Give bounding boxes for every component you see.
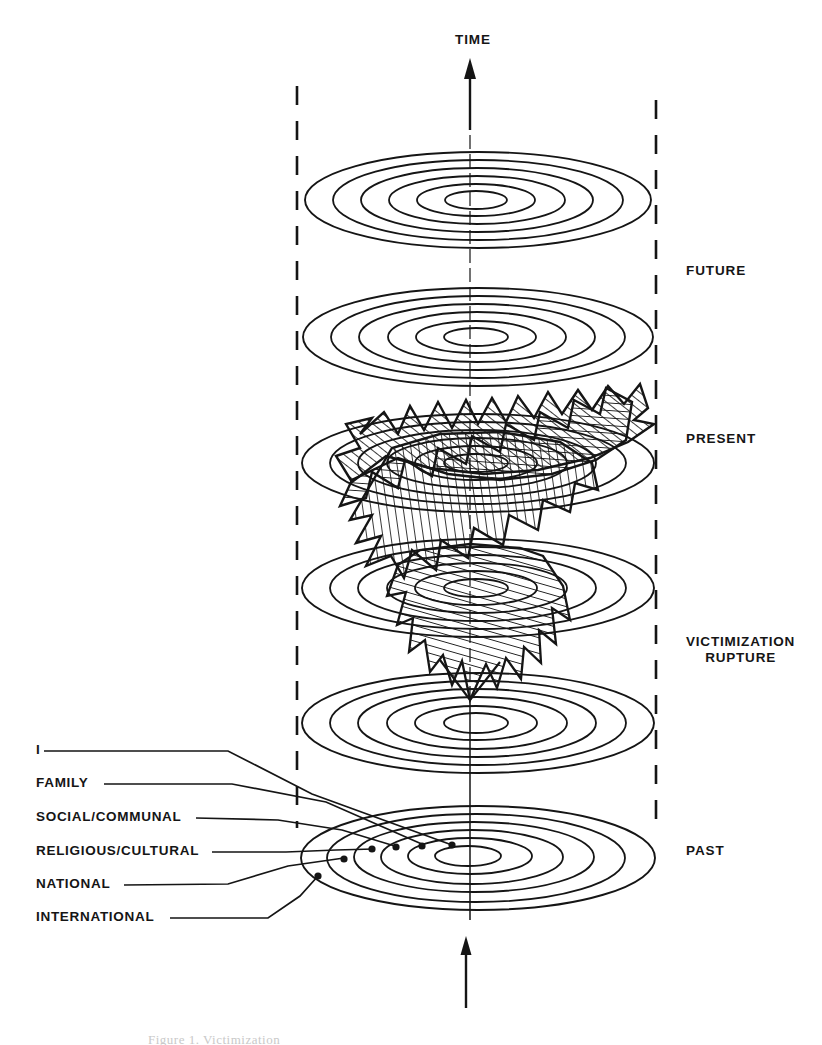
ring-label-family: FAMILY	[36, 775, 88, 790]
ring-label-international: INTERNATIONAL	[36, 909, 154, 924]
ring-label-social-communal: SOCIAL/COMMUNAL	[36, 809, 182, 824]
plane-5-rupture-lower	[302, 673, 654, 773]
leader-line-social	[196, 818, 398, 847]
ring-dot-social	[392, 843, 399, 850]
rupture-cone	[336, 384, 654, 700]
figure-caption: Figure 1. Victimization	[148, 1032, 280, 1045]
time-axis-lower-arrowhead	[461, 936, 472, 955]
era-label-rupture-line1: VICTIMIZATION	[686, 634, 795, 650]
time-axis-upper-arrowhead	[464, 58, 476, 79]
plane-1-future-upper	[305, 152, 651, 248]
diagram-canvas	[0, 0, 822, 1045]
plane-2-future-lower	[303, 288, 653, 386]
time-axis-label: TIME	[455, 32, 491, 48]
ring-dot-i	[448, 841, 455, 848]
ring-label-religious-cultural: RELIGIOUS/CULTURAL	[36, 843, 199, 858]
leader-line-national	[124, 858, 344, 885]
era-label-rupture-line2: RUPTURE	[686, 650, 795, 666]
ring-dot-national	[340, 855, 347, 862]
ring-dot-religious	[368, 845, 375, 852]
leader-line-religious	[212, 849, 374, 852]
era-label-past: PAST	[686, 843, 725, 859]
ring-label-national: NATIONAL	[36, 876, 110, 891]
leader-line-international	[170, 876, 318, 918]
ring-dot-family	[418, 842, 425, 849]
leader-lines	[44, 751, 452, 918]
era-label-future: FUTURE	[686, 263, 746, 279]
ring-dot-international	[314, 872, 321, 879]
figure-page: TIME FUTURE PRESENT VICTIMIZATION RUPTUR…	[0, 0, 822, 1045]
plane-6-past	[301, 806, 655, 910]
ring-label-i: I	[36, 742, 40, 757]
era-label-victimization-rupture: VICTIMIZATION RUPTURE	[686, 634, 795, 666]
era-label-present: PRESENT	[686, 431, 756, 447]
